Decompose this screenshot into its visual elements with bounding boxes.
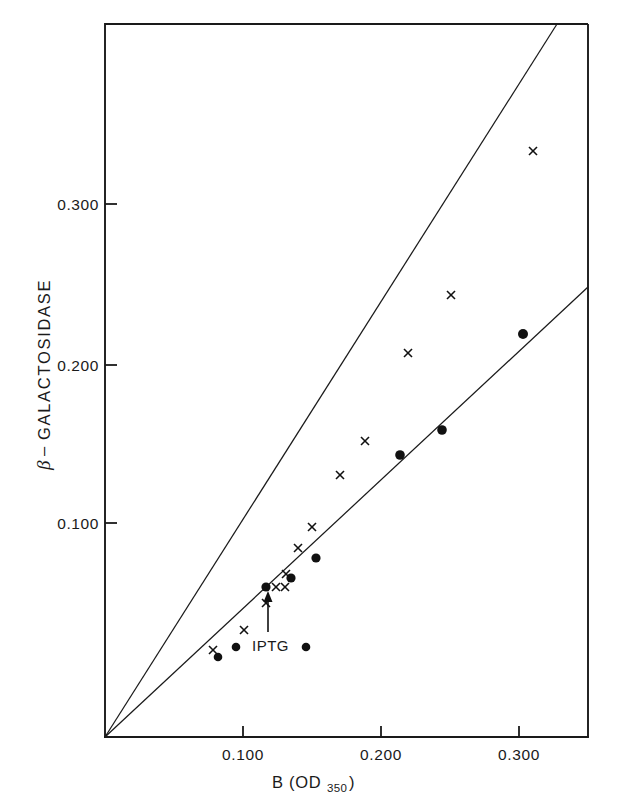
data-point-dot	[395, 450, 405, 460]
data-point-dot	[302, 643, 311, 652]
x-axis-title-close: )	[349, 773, 355, 791]
chart-canvas: 0.300 0.200 0.100 0.100 0.200 0.300 B (O…	[0, 0, 620, 808]
iptg-annotation-label: IPTG	[252, 637, 289, 654]
x-axis-ticks	[243, 726, 519, 737]
data-point-x	[272, 583, 280, 591]
data-point-x	[308, 523, 316, 531]
x-axis-title-subscript: 350	[327, 782, 347, 794]
data-point-dot	[311, 553, 320, 562]
iptg-arrow-head	[264, 591, 273, 602]
data-point-x	[529, 147, 537, 155]
data-point-x	[336, 471, 344, 479]
x-axis-title-main: B (OD	[272, 773, 321, 791]
y-axis-title: β – GALACTOSIDASE	[33, 279, 54, 471]
y-tick-labels: 0.300 0.200 0.100	[57, 196, 99, 532]
data-point-x	[240, 626, 248, 634]
data-point-dot	[437, 425, 447, 435]
x-tick-labels: 0.100 0.200 0.300	[222, 746, 540, 763]
data-point-x	[404, 349, 412, 357]
iptg-annotation: IPTG	[252, 591, 289, 654]
data-point-x	[209, 646, 217, 654]
data-point-x	[281, 583, 289, 591]
fit-line-steep-induced	[105, 24, 557, 737]
figure-container: 0.300 0.200 0.100 0.100 0.200 0.300 B (O…	[0, 0, 620, 808]
data-point-dot	[214, 653, 223, 662]
data-point-dot	[286, 573, 295, 582]
y-tick-label-0100: 0.100	[57, 515, 99, 532]
x-tick-label-0200: 0.200	[360, 746, 402, 763]
y-axis-ticks	[105, 204, 117, 523]
plot-frame	[105, 24, 588, 737]
data-point-x	[447, 291, 455, 299]
fit-line-shallow-uninduced	[105, 287, 588, 737]
data-point-dot	[232, 643, 241, 652]
series-uninduced-markers	[214, 329, 528, 661]
x-tick-label-0300: 0.300	[498, 746, 540, 763]
series-induced-markers	[209, 147, 537, 654]
data-point-dot	[261, 582, 270, 591]
data-point-x	[361, 437, 369, 445]
y-axis-title-dash: –	[34, 445, 52, 456]
x-tick-label-0100: 0.100	[222, 746, 264, 763]
y-axis-title-text: GALACTOSIDASE	[35, 279, 53, 440]
fit-lines	[105, 24, 588, 737]
data-point-x	[294, 544, 302, 552]
data-point-dot	[518, 329, 528, 339]
x-axis-title: B (OD 350 )	[272, 773, 355, 794]
y-tick-label-0300: 0.300	[57, 196, 99, 213]
y-axis-title-beta: β	[33, 460, 54, 471]
y-tick-label-0200: 0.200	[57, 357, 99, 374]
